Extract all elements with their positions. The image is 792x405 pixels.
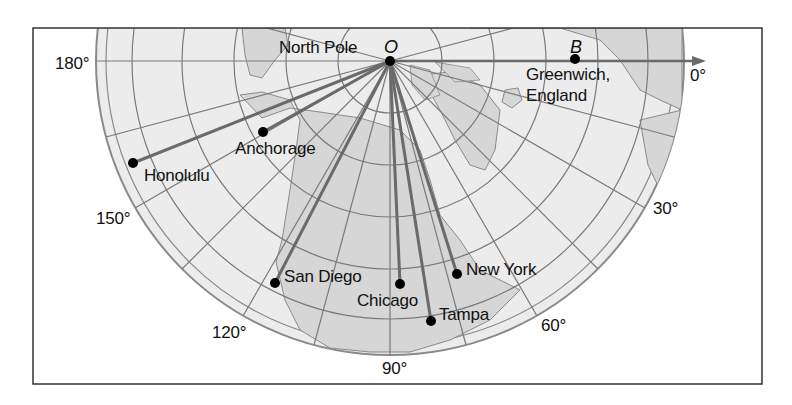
city-dot-san-diego bbox=[270, 278, 280, 288]
arrowhead-icon bbox=[692, 56, 706, 66]
pole-dot bbox=[385, 56, 395, 66]
city-dot-new-york bbox=[452, 269, 462, 279]
city-label-new-york: New York bbox=[466, 261, 536, 278]
city-label-san-diego: San Diego bbox=[284, 268, 362, 285]
greenwich-point-label: B bbox=[570, 38, 582, 56]
city-label-honolulu: Honolulu bbox=[144, 167, 210, 184]
city-label-chicago: Chicago bbox=[357, 292, 418, 309]
city-dot-anchorage bbox=[258, 127, 268, 137]
longitude-label-30: 30° bbox=[653, 200, 678, 217]
city-dot-chicago bbox=[395, 279, 405, 289]
longitude-label-90: 90° bbox=[382, 360, 407, 377]
city-dot-honolulu bbox=[128, 158, 138, 168]
longitude-label-60: 60° bbox=[541, 317, 566, 334]
north-pole-label: North Pole bbox=[279, 39, 357, 56]
longitude-label-0: 0° bbox=[690, 67, 706, 84]
city-dot-tampa bbox=[426, 316, 436, 326]
longitude-label-120: 120° bbox=[212, 324, 246, 341]
longitude-label-180: 180° bbox=[55, 55, 89, 72]
city-label-tampa: Tampa bbox=[439, 306, 489, 323]
city-label-anchorage: Anchorage bbox=[235, 140, 315, 157]
greenwich-label-line2: England bbox=[526, 87, 587, 104]
pole-point-label: O bbox=[384, 38, 398, 56]
polar-map-diagram: North Pole O B Greenwich, England 180° 1… bbox=[0, 0, 792, 405]
longitude-label-150: 150° bbox=[96, 210, 130, 227]
greenwich-label-line1: Greenwich, bbox=[526, 66, 610, 83]
